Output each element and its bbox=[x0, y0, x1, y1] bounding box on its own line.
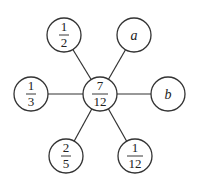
node-top-left-denominator: 2 bbox=[61, 35, 68, 50]
node-top-right: a bbox=[117, 18, 151, 52]
node-left-numerator: 1 bbox=[28, 78, 35, 93]
center-node: 7 12 bbox=[83, 77, 117, 111]
center-denominator: 12 bbox=[94, 94, 107, 109]
node-bottom-right-numerator: 1 bbox=[132, 140, 139, 155]
node-bottom-left-denominator: 5 bbox=[63, 156, 70, 171]
node-right-label: b bbox=[165, 87, 172, 102]
center-numerator: 7 bbox=[97, 78, 104, 93]
node-bottom-left: 2 5 bbox=[49, 139, 83, 173]
node-bottom-right-denominator: 12 bbox=[129, 156, 142, 171]
node-top-right-label: a bbox=[131, 28, 138, 43]
node-top-left: 1 2 bbox=[47, 18, 81, 52]
node-right: b bbox=[151, 77, 185, 111]
node-bottom-left-numerator: 2 bbox=[63, 140, 70, 155]
node-left-denominator: 3 bbox=[28, 94, 35, 109]
node-top-left-numerator: 1 bbox=[61, 19, 68, 34]
node-bottom-right: 1 12 bbox=[118, 139, 152, 173]
node-left: 1 3 bbox=[14, 77, 48, 111]
star-diagram: 7 12 1 2 a 1 3 b 2 5 1 12 bbox=[0, 0, 204, 184]
